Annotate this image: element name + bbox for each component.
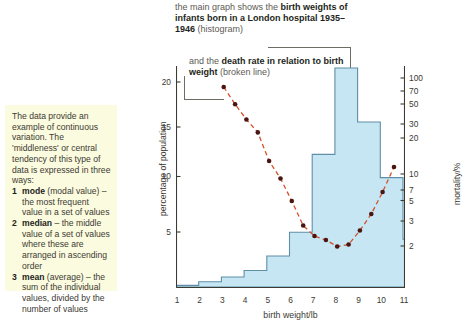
- y-axis-right-tick-label: 7: [409, 185, 435, 195]
- leader-line-histogram-horizontal: [268, 47, 351, 48]
- y-axis-right-tick-label: 70: [409, 86, 435, 96]
- note-panel: The data provide an example of continuou…: [5, 105, 117, 291]
- caption-histogram: the main graph shows the birth weights o…: [175, 2, 365, 36]
- caption-mortality-lead: and the: [189, 56, 219, 66]
- list-item: 3mean (average) – the sum of the individ…: [12, 272, 111, 315]
- y-axis-right-title: mortality/%: [452, 163, 462, 206]
- y-axis-left-tick-label: 20: [149, 77, 171, 87]
- x-axis-tick-label: 1: [169, 295, 185, 305]
- y-axis-right-tick-label: 50: [409, 99, 435, 109]
- data-point: [256, 130, 261, 135]
- x-axis-tick-label: 4: [237, 295, 253, 305]
- data-point: [392, 165, 397, 170]
- list-item-term: median: [22, 218, 52, 228]
- y-axis-right-tick-label: 10: [409, 169, 435, 179]
- data-point: [221, 85, 226, 90]
- list-item: 2median – the middle value of a set of v…: [12, 218, 111, 272]
- note-intro-text: The data provide an example of continuou…: [12, 111, 111, 186]
- data-point: [290, 199, 295, 204]
- y-axis-right-tick-label: 20: [409, 133, 435, 143]
- x-axis-tick-label: 8: [328, 295, 344, 305]
- y-axis-left-tick-label: 5: [149, 227, 171, 237]
- data-point: [267, 159, 272, 164]
- x-axis-title: birth weight/lb: [176, 310, 405, 320]
- data-point: [380, 190, 385, 195]
- central-tendency-list: 1mode (modal value) – the most frequent …: [12, 186, 111, 314]
- figure-container: The data provide an example of continuou…: [0, 0, 470, 331]
- data-point: [324, 238, 329, 243]
- data-point: [233, 102, 238, 107]
- list-item-number: 3: [12, 272, 17, 283]
- y-axis-right-tick-label: 30: [409, 119, 435, 129]
- x-axis-tick-label: 3: [214, 295, 230, 305]
- data-point: [278, 176, 283, 181]
- chart-plot-area: 5 10 15 20 100 70 50 30 20 10 7 5 3 2 1 …: [176, 66, 405, 288]
- data-point: [244, 117, 249, 122]
- list-item-term: mode: [22, 186, 45, 196]
- list-item-term: mean: [22, 272, 44, 282]
- list-item-number: 1: [12, 186, 17, 197]
- data-point: [301, 223, 306, 228]
- y-axis-right-ticks: [401, 78, 405, 246]
- x-axis-tick-label: 9: [351, 295, 367, 305]
- x-axis-tick-label: 11: [396, 295, 412, 305]
- histogram-bars: [176, 68, 405, 287]
- caption-histogram-tail: (histogram): [198, 24, 244, 34]
- y-axis-left-ticks: [177, 82, 181, 232]
- x-axis-tick-label: 10: [373, 295, 389, 305]
- data-point: [358, 228, 363, 233]
- x-axis-tick-label: 6: [283, 295, 299, 305]
- y-axis-right-tick-label: 100: [409, 73, 435, 83]
- data-point: [312, 234, 317, 239]
- x-axis-tick-label: 5: [260, 295, 276, 305]
- data-point: [369, 212, 374, 217]
- y-axis-right-tick-label: 2: [409, 241, 435, 251]
- histogram-outline: [176, 68, 405, 287]
- x-axis-tick-label: 2: [192, 295, 208, 305]
- data-point: [346, 242, 351, 247]
- chart-svg: [176, 66, 405, 288]
- y-axis-right-tick-label: 5: [409, 196, 435, 206]
- list-item-number: 2: [12, 218, 17, 229]
- x-axis-tick-label: 7: [305, 295, 321, 305]
- caption-histogram-lead: the main graph shows the: [175, 2, 278, 12]
- list-item: 1mode (modal value) – the most frequent …: [12, 186, 111, 218]
- data-point: [335, 244, 340, 249]
- y-axis-left-title: percentage of population: [158, 121, 168, 216]
- y-axis-right-tick-label: 3: [409, 216, 435, 226]
